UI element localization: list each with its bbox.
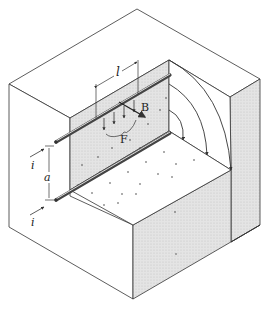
length-label: l xyxy=(116,66,120,78)
current-label-top: i xyxy=(31,160,35,171)
block-diagram xyxy=(0,0,266,309)
current-label-bottom: i xyxy=(31,217,35,228)
field-label: B xyxy=(141,102,149,113)
front-face-dot xyxy=(175,253,177,255)
right-side-face xyxy=(230,79,260,242)
force-label: F xyxy=(120,134,128,145)
separation-label: a xyxy=(44,172,51,183)
